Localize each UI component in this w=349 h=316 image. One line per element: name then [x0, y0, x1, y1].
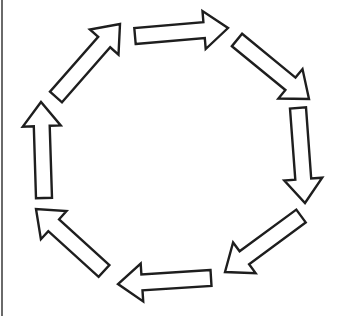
arrow-top-left-icon	[50, 24, 120, 102]
arrow-top-right-icon	[232, 34, 309, 99]
cycle-diagram	[0, 0, 349, 316]
arrow-down-right-shape	[232, 34, 309, 99]
arrow-right-shape	[134, 11, 228, 49]
arrow-top-icon	[134, 11, 228, 49]
arrow-bottom-right-icon	[225, 210, 306, 274]
arrow-up-shape	[23, 102, 61, 198]
arrow-left-icon	[23, 102, 61, 198]
arrow-down-left-shape	[225, 210, 306, 274]
arrow-bottom-icon	[118, 264, 212, 302]
arrow-up-left-shape	[36, 209, 109, 277]
arrow-up-right-shape	[50, 24, 120, 102]
arrow-bottom-left-icon	[36, 209, 109, 277]
arrow-down-shape	[284, 107, 322, 203]
arrow-left-shape	[118, 264, 212, 302]
arrow-right-icon	[284, 107, 322, 203]
